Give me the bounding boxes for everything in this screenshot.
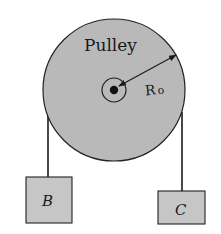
pulley-axle-dot [110,86,118,94]
mass-label-b: B [41,192,53,210]
pulley-diagram: Pulley Ro B C [0,0,221,234]
radius-label-main: R [144,81,157,98]
radius-label: Ro [144,81,165,99]
pulley-label: Pulley [84,35,137,55]
mass-label-c: C [175,201,187,219]
